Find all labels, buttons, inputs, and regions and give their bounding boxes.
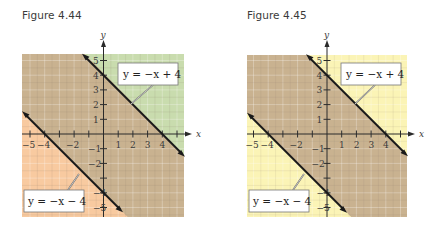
svg-text:−5: −5 (317, 203, 331, 213)
equation-lower: y = −x − 4 (27, 195, 87, 207)
svg-text:−5: −5 (246, 140, 260, 150)
svg-text:4: 4 (383, 140, 389, 150)
y-axis-arrow-icon (101, 40, 106, 47)
y-axis-label: y (100, 30, 107, 40)
graphs: x y −5 −4 −2 1 2 3 4 5 4 (0, 0, 438, 229)
x-axis-label: x (196, 129, 201, 139)
svg-text:2: 2 (130, 140, 136, 150)
svg-text:3: 3 (317, 85, 323, 95)
svg-text:−5: −5 (93, 203, 107, 213)
svg-text:−4: −4 (37, 140, 51, 150)
y-axis-arrow-icon (325, 40, 330, 47)
x-axis-label: x (419, 129, 424, 139)
svg-text:−1: −1 (88, 144, 101, 154)
figure-4-45: x y −5 −4 −2 1 2 3 4 5 4 3 (246, 30, 425, 217)
x-axis-arrow-icon (408, 132, 415, 137)
svg-text:3: 3 (145, 140, 151, 150)
svg-text:2: 2 (93, 100, 99, 110)
svg-text:−2: −2 (66, 140, 79, 150)
svg-text:1: 1 (116, 140, 122, 150)
equation-lower: y = −x − 4 (252, 195, 312, 207)
y-axis-label: y (323, 30, 330, 40)
x-axis-arrow-icon (185, 132, 192, 137)
svg-text:1: 1 (317, 115, 323, 125)
svg-text:−2: −2 (290, 140, 303, 150)
svg-text:1: 1 (339, 140, 345, 150)
svg-text:3: 3 (368, 140, 374, 150)
svg-text:1: 1 (93, 115, 99, 125)
svg-text:4: 4 (160, 140, 166, 150)
svg-text:4: 4 (93, 71, 99, 81)
svg-text:−4: −4 (261, 140, 275, 150)
svg-text:−5: −5 (22, 140, 36, 150)
svg-text:4: 4 (317, 71, 323, 81)
svg-text:2: 2 (317, 100, 323, 110)
svg-text:2: 2 (354, 140, 360, 150)
equation-upper: y = −x + 4 (122, 68, 182, 80)
svg-text:−2: −2 (312, 159, 325, 169)
equation-upper: y = −x + 4 (345, 68, 405, 80)
svg-text:−2: −2 (88, 159, 101, 169)
svg-text:−1: −1 (312, 144, 325, 154)
svg-text:3: 3 (93, 85, 99, 95)
